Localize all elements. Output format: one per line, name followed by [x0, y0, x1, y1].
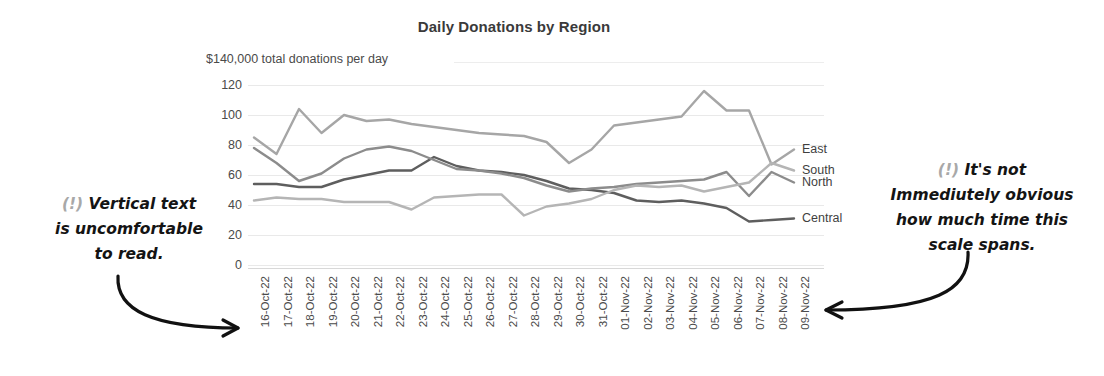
plot-area: 120100806040200 16-Oct-2217-Oct-2218-Oct…	[204, 82, 824, 282]
x-tick-label: 03-Nov-22	[664, 276, 676, 330]
x-tick-label: 22-Oct-22	[394, 276, 406, 327]
x-axis: 16-Oct-2217-Oct-2218-Oct-2219-Oct-2220-O…	[248, 270, 824, 360]
x-tick-label: 20-Oct-22	[349, 276, 361, 327]
x-axis-rule	[248, 268, 824, 269]
x-tick-label: 08-Nov-22	[777, 276, 789, 330]
series-label-north: North	[802, 175, 833, 189]
y-tick-label: 120	[221, 78, 242, 92]
x-tick-label: 23-Oct-22	[417, 276, 429, 327]
y-tick-label: 60	[228, 168, 242, 182]
y-tick-label: 80	[228, 138, 242, 152]
subtitle-rule	[454, 62, 824, 63]
series-line	[254, 91, 794, 165]
x-tick-label: 27-Oct-22	[507, 276, 519, 327]
x-tick-label: 19-Oct-22	[327, 276, 339, 327]
warning-marker-left: (!)	[62, 195, 83, 213]
x-tick-label: 06-Nov-22	[732, 276, 744, 330]
warning-marker-right: (!)	[938, 161, 959, 179]
annotation-left: (!) Vertical text is uncomfortable to re…	[18, 192, 240, 267]
x-tick-label: 18-Oct-22	[304, 276, 316, 327]
x-tick-label: 21-Oct-22	[372, 276, 384, 327]
y-tick-label: 100	[221, 108, 242, 122]
series-lines	[248, 82, 824, 268]
chart-container: Daily Donations by Region $140,000 total…	[204, 10, 824, 370]
annotation-right-text: It's not Immediutely obvious how much ti…	[891, 161, 1074, 254]
series-label-central: Central	[802, 211, 842, 225]
x-tick-label: 25-Oct-22	[462, 276, 474, 327]
x-tick-label: 04-Nov-22	[687, 276, 699, 330]
annotation-right: (!) It's not Immediutely obvious how muc…	[872, 158, 1092, 258]
chart-subtitle: $140,000 total donations per day	[206, 52, 388, 66]
chart-title: Daily Donations by Region	[204, 18, 824, 35]
series-label-south: South	[802, 163, 835, 177]
x-tick-label: 31-Oct-22	[597, 276, 609, 327]
chart-screenshot: Daily Donations by Region $140,000 total…	[0, 0, 1104, 376]
x-tick-label: 30-Oct-22	[574, 276, 586, 327]
series-label-east: East	[802, 142, 827, 156]
x-tick-label: 05-Nov-22	[709, 276, 721, 330]
x-tick-label: 29-Oct-22	[552, 276, 564, 327]
curved-arrow-right-annotation	[808, 250, 978, 340]
x-tick-label: 07-Nov-22	[754, 276, 766, 330]
x-tick-label: 02-Nov-22	[642, 276, 654, 330]
curved-arrow-left-annotation	[110, 272, 270, 352]
x-tick-label: 28-Oct-22	[529, 276, 541, 327]
x-tick-label: 24-Oct-22	[439, 276, 451, 327]
x-tick-label: 01-Nov-22	[619, 276, 631, 330]
x-tick-label: 17-Oct-22	[282, 276, 294, 327]
series-line	[254, 163, 794, 216]
x-tick-label: 26-Oct-22	[484, 276, 496, 327]
